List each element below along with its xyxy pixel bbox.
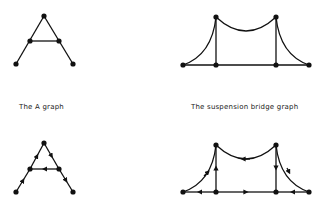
suspension-bridge-graph [183, 17, 309, 65]
caption-bridge-graph: The suspension bridge graph [191, 103, 298, 111]
suspension-bridge-graph-directed [183, 145, 309, 192]
diagram-canvas [0, 0, 326, 200]
a-graph [16, 16, 73, 64]
a-graph-directed [16, 143, 73, 192]
caption-a-graph: The A graph [19, 103, 64, 111]
